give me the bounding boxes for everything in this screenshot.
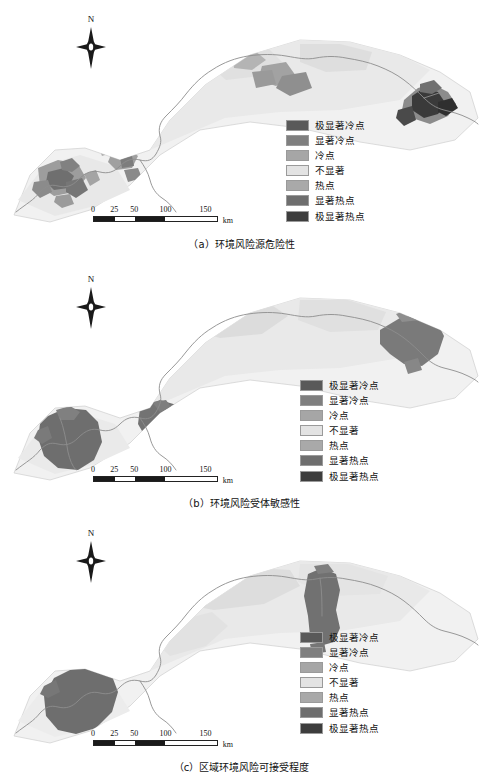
legend-label: 不显著 — [329, 677, 359, 688]
legend-label: 热点 — [329, 440, 349, 451]
north-arrow-icon — [74, 25, 108, 71]
legend-item: 极显著冷点 — [300, 630, 379, 644]
scalebar-tick: 50 — [130, 205, 138, 214]
north-arrow-b: N — [74, 276, 108, 332]
legend-swatch — [300, 662, 323, 673]
scalebar-tick: 50 — [130, 729, 138, 738]
legend-swatch — [300, 723, 323, 734]
legend-item: 显著冷点 — [300, 645, 379, 659]
scalebar-unit-b: km — [223, 476, 233, 485]
legend-item: 冷点 — [300, 660, 379, 674]
legend-swatch — [300, 677, 323, 688]
scalebar-bar-b — [93, 476, 218, 482]
map-canvas-a — [0, 0, 483, 258]
scalebar-ticks-b: 0 25 50 100 150 — [93, 465, 218, 476]
caption-a: （a）环境风险源危险性 — [0, 238, 483, 251]
scalebar-tick: 25 — [110, 729, 118, 738]
north-arrow-icon — [74, 285, 108, 331]
caption-b: （b）环境风险受体敏感性 — [0, 497, 483, 510]
legend-swatch — [286, 150, 309, 161]
north-arrow-a: N — [74, 16, 108, 72]
legend-swatch — [300, 647, 323, 658]
legend-label: 极显著热点 — [329, 471, 379, 482]
north-arrow-c: N — [74, 530, 108, 586]
legend-item: 不显著 — [300, 424, 379, 438]
scalebar-tick: 100 — [160, 465, 172, 474]
legend-label: 热点 — [315, 180, 335, 191]
legend-swatch — [300, 395, 323, 406]
map-panel-b: N 0 25 50 100 150 — [0, 258, 483, 516]
legend-item: 极显著冷点 — [300, 378, 379, 392]
legend-item: 显著冷点 — [300, 393, 379, 407]
legend-swatch — [300, 440, 323, 451]
legend-c: 极显著冷点 显著冷点 冷点 不显著 热点 显著热点 — [300, 630, 379, 736]
legend-label: 冷点 — [329, 410, 349, 421]
legend-item: 热点 — [300, 439, 379, 453]
legend-swatch — [286, 120, 309, 131]
scalebar-tick: 0 — [91, 729, 95, 738]
legend-item: 显著热点 — [300, 706, 379, 720]
legend-label: 极显著热点 — [315, 211, 365, 222]
legend-item: 极显著热点 — [300, 469, 379, 483]
scalebar-tick: 150 — [200, 729, 212, 738]
legend-label: 极显著冷点 — [315, 120, 365, 131]
legend-label: 热点 — [329, 692, 349, 703]
figure-map-series: N 0 25 50 100 150 — [0, 0, 483, 780]
caption-c: （c）区域环境风险可接受程度 — [0, 761, 483, 774]
scalebar-bar-c — [93, 740, 218, 746]
legend-label: 极显著冷点 — [329, 380, 379, 391]
legend-swatch — [300, 471, 323, 482]
scalebar-tick: 25 — [110, 465, 118, 474]
legend-swatch — [286, 165, 309, 176]
legend-swatch — [286, 195, 309, 206]
legend-swatch — [286, 135, 309, 146]
scalebar-a: 0 25 50 100 150 km — [93, 205, 218, 222]
scalebar-unit-c: km — [223, 740, 233, 749]
legend-label: 显著冷点 — [315, 135, 355, 146]
north-arrow-icon — [74, 539, 108, 585]
legend-a: 极显著冷点 显著冷点 冷点 不显著 热点 显著热点 — [286, 118, 365, 224]
legend-item: 不显著 — [300, 676, 379, 690]
scalebar-c: 0 25 50 100 150 km — [93, 729, 218, 746]
legend-item: 显著热点 — [286, 194, 365, 208]
scalebar-tick: 150 — [200, 205, 212, 214]
map-panel-c: N 0 25 50 100 150 — [0, 516, 483, 780]
legend-swatch — [300, 425, 323, 436]
legend-item: 热点 — [286, 179, 365, 193]
legend-item: 显著热点 — [300, 454, 379, 468]
legend-item: 冷点 — [286, 148, 365, 162]
legend-swatch — [286, 211, 309, 222]
legend-item: 不显著 — [286, 164, 365, 178]
scalebar-ticks-a: 0 25 50 100 150 — [93, 205, 218, 216]
legend-label: 极显著热点 — [329, 723, 379, 734]
north-label-c: N — [74, 528, 108, 538]
legend-label: 冷点 — [315, 150, 335, 161]
legend-label: 不显著 — [329, 425, 359, 436]
map-canvas-c — [0, 516, 483, 780]
legend-swatch — [300, 380, 323, 391]
legend-item: 极显著热点 — [286, 209, 365, 223]
scalebar-tick: 25 — [110, 205, 118, 214]
legend-swatch — [300, 692, 323, 703]
scalebar-tick: 100 — [160, 729, 172, 738]
legend-swatch — [286, 180, 309, 191]
legend-label: 显著热点 — [315, 195, 355, 206]
scalebar-ticks-c: 0 25 50 100 150 — [93, 729, 218, 740]
legend-item: 冷点 — [300, 408, 379, 422]
legend-label: 显著热点 — [329, 455, 369, 466]
map-panel-a: N 0 25 50 100 150 — [0, 0, 483, 258]
scalebar-b: 0 25 50 100 150 km — [93, 465, 218, 482]
legend-label: 极显著冷点 — [329, 632, 379, 643]
scalebar-unit-a: km — [223, 216, 233, 225]
legend-swatch — [300, 455, 323, 466]
north-label-a: N — [74, 14, 108, 24]
legend-swatch — [300, 707, 323, 718]
north-label-b: N — [74, 274, 108, 284]
scalebar-tick: 150 — [200, 465, 212, 474]
scalebar-tick: 0 — [91, 205, 95, 214]
legend-item: 热点 — [300, 691, 379, 705]
legend-label: 显著冷点 — [329, 395, 369, 406]
legend-label: 显著冷点 — [329, 647, 369, 658]
legend-item: 极显著冷点 — [286, 118, 365, 132]
legend-label: 不显著 — [315, 165, 345, 176]
